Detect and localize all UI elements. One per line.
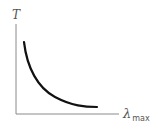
x-axis-label: λmax [123, 107, 150, 120]
chart: T λmax [0, 0, 151, 124]
curve [24, 42, 97, 107]
y-axis-label: T [12, 9, 20, 21]
x-axis-label-main: λ [123, 106, 131, 121]
x-axis-label-subscript: max [132, 114, 149, 123]
